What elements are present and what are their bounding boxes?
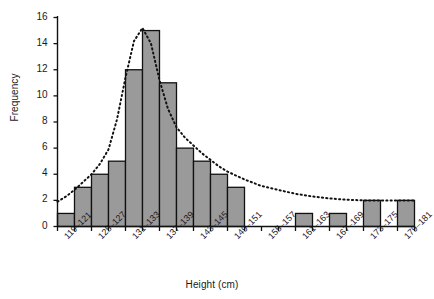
- histogram-bar: [194, 161, 211, 226]
- y-axis-tick-label: 12: [26, 63, 48, 74]
- y-axis-tick-label: 4: [26, 167, 48, 178]
- histogram-bar: [92, 174, 109, 226]
- y-axis-tick-label: 0: [26, 220, 48, 231]
- y-axis-tick-label: 10: [26, 89, 48, 100]
- histogram-bar: [143, 31, 160, 227]
- y-axis-tick-label: 16: [26, 11, 48, 22]
- histogram-bar: [228, 187, 245, 226]
- x-axis-title: Height (cm): [0, 279, 424, 290]
- bars-group: [58, 31, 415, 227]
- y-axis-title: Frequency: [9, 58, 20, 138]
- y-axis-tick-label: 14: [26, 37, 48, 48]
- histogram-bar: [126, 70, 143, 227]
- y-axis-tick-label: 8: [26, 115, 48, 126]
- y-axis-tick-label: 6: [26, 141, 48, 152]
- y-axis-tick-label: 2: [26, 193, 48, 204]
- histogram-bar: [160, 83, 177, 227]
